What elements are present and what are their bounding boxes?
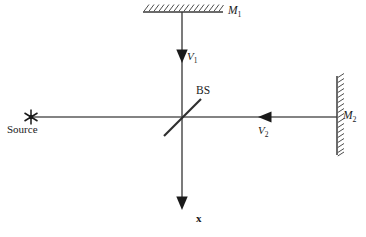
optics-diagram-canvas: M1 M2 V1 V2 BS Source x xyxy=(0,0,366,237)
arrowhead-down-v1-icon xyxy=(176,50,187,64)
velocity-1-label: V1 xyxy=(187,51,197,62)
mirror-1-group xyxy=(143,5,224,13)
mirror-1-label-subscript: 1 xyxy=(238,10,242,19)
mirror-2-label-subscript: 2 xyxy=(353,115,357,124)
beam-paths xyxy=(31,12,337,206)
velocity-1-label-text: V xyxy=(187,50,194,62)
velocity-2-label-subscript: 2 xyxy=(265,130,269,139)
mirror-1-label: M1 xyxy=(228,5,242,17)
velocity-2-label-text: V xyxy=(258,124,265,136)
velocity-1-label-subscript: 1 xyxy=(194,56,198,65)
source-label: Source xyxy=(7,124,38,135)
mirror-1-hatching xyxy=(144,5,224,12)
mirror-1-label-text: M xyxy=(228,4,238,16)
beam-splitter-label: BS xyxy=(196,85,210,97)
velocity-2-label: V2 xyxy=(258,125,268,136)
mirror-2-label-text: M xyxy=(343,109,353,121)
mirror-2-label: M2 xyxy=(343,110,357,122)
x-axis-label: x xyxy=(196,213,202,224)
diagram-vector-layer xyxy=(0,0,366,237)
arrowhead-left-v2-icon xyxy=(258,111,272,122)
arrowhead-down-x-icon xyxy=(176,197,187,211)
